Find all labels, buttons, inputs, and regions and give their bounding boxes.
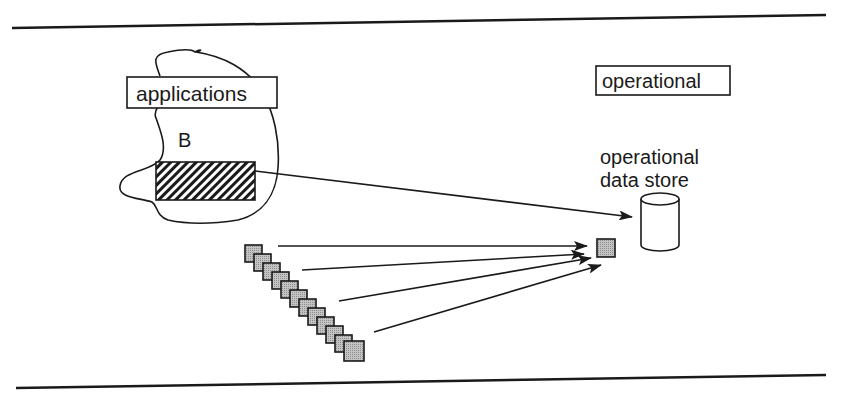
database-cylinder-icon	[641, 193, 679, 251]
ods-label-line2: data store	[600, 169, 689, 191]
b-label: B	[178, 129, 191, 151]
application-data-block	[156, 162, 255, 200]
diagram-canvas: applications B operational operational d…	[0, 0, 842, 400]
arrow-application-to-ods	[255, 171, 632, 217]
ods-entry-block	[597, 239, 615, 257]
bottom-rule	[16, 375, 826, 388]
operational-label: operational	[602, 70, 701, 92]
applications-label: applications	[136, 82, 247, 105]
ods-label-line1: operational	[600, 146, 699, 168]
top-rule	[12, 15, 826, 28]
source-block-stack	[245, 245, 364, 361]
